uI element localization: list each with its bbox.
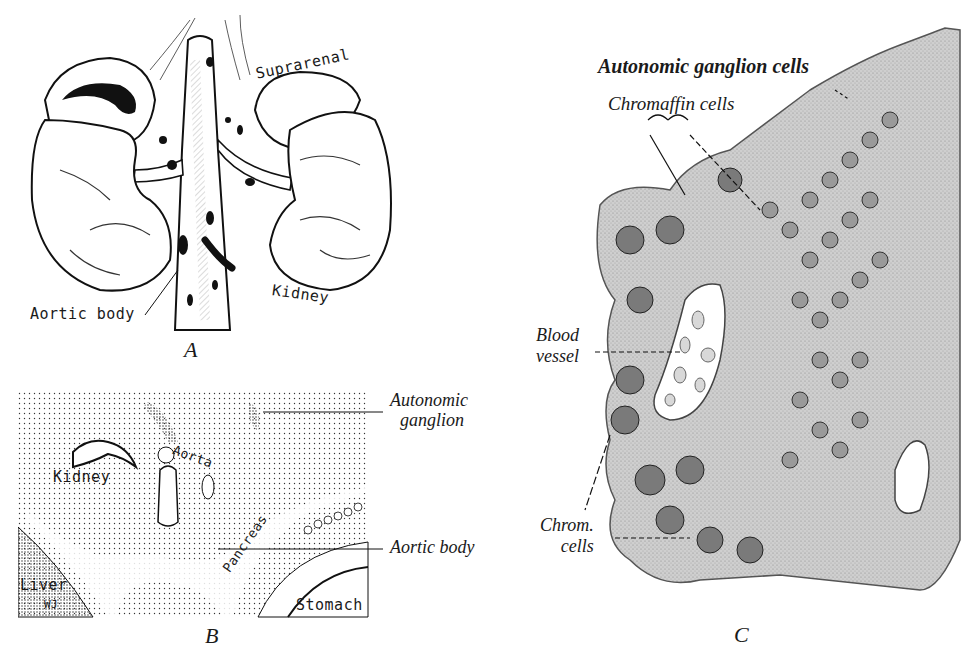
label-autonomic-ganglion-line2: ganglion — [390, 410, 468, 430]
label-chrom-cells-line2: cells — [540, 536, 594, 557]
label-kidney-b: Kidney — [53, 468, 110, 486]
label-chrom-cells-line1: Chrom. — [540, 515, 594, 536]
label-liver: Liver — [20, 576, 68, 594]
label-chromaffin-cells: Chromaffin cells — [608, 93, 735, 115]
label-blood-vessel-line2: vessel — [536, 346, 579, 367]
caption-b: B — [205, 623, 218, 649]
label-autonomic-ganglion-cells: Autonomic ganglion cells — [598, 55, 809, 78]
label-blood-vessel-line1: Blood — [536, 325, 579, 346]
left-kidney — [32, 120, 171, 291]
label-initials: WJ — [44, 598, 58, 611]
label-chrom-cells: Chrom. cells — [540, 515, 594, 557]
label-blood-vessel: Blood vessel — [536, 325, 579, 367]
right-kidney — [270, 112, 391, 290]
caption-a: A — [184, 337, 197, 363]
label-stomach: Stomach — [296, 596, 363, 614]
kidneys-aorta-illustration — [0, 0, 420, 340]
aorta-lumen — [158, 466, 178, 526]
label-aortic-body-b: Aortic body — [390, 537, 474, 558]
panel-c: Autonomic ganglion cells Chromaffin cell… — [520, 0, 963, 661]
embryo-section-illustration — [18, 392, 388, 622]
label-aortic-body: Aortic body — [30, 305, 135, 323]
panel-b: Kidney Aorta Liver WJ Pancreas Stomach A… — [0, 370, 520, 661]
caption-c: C — [734, 622, 749, 648]
panel-a: Suprarenal Kidney Aortic body A — [0, 0, 420, 370]
label-autonomic-ganglion-line1: Autonomic — [390, 390, 468, 410]
label-autonomic-ganglion: Autonomic ganglion — [390, 390, 468, 430]
